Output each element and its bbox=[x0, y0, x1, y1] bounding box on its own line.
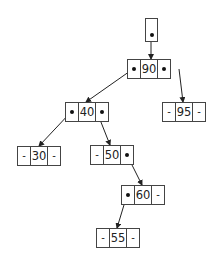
root-pointer-box bbox=[145, 18, 158, 42]
right-null-cell: - bbox=[127, 229, 139, 247]
pointer-dot-icon bbox=[100, 110, 104, 114]
right-pointer-cell bbox=[96, 103, 108, 121]
node-key: 40 bbox=[78, 103, 96, 121]
right-null-cell: - bbox=[152, 186, 164, 204]
pointer-dot-icon bbox=[125, 153, 129, 157]
tree-edges bbox=[0, 0, 218, 261]
tree-node-50: - 50 bbox=[90, 145, 134, 165]
node-key: 60 bbox=[134, 186, 152, 204]
left-pointer-cell bbox=[128, 60, 140, 78]
tree-node-60: 60 - bbox=[121, 185, 165, 205]
left-null-cell: - bbox=[97, 229, 109, 247]
tree-node-30: - 30 - bbox=[17, 146, 61, 166]
tree-node-55: - 55 - bbox=[96, 228, 140, 248]
node-key: 55 bbox=[109, 229, 127, 247]
node-key: 90 bbox=[140, 60, 158, 78]
right-null-cell: - bbox=[48, 147, 60, 165]
left-pointer-cell bbox=[66, 103, 78, 121]
left-pointer-cell bbox=[122, 186, 134, 204]
tree-node-95: - 95 - bbox=[162, 102, 206, 122]
left-null-cell: - bbox=[18, 147, 30, 165]
node-key: 30 bbox=[30, 147, 48, 165]
node-key: 95 bbox=[175, 103, 193, 121]
right-pointer-cell bbox=[121, 146, 133, 164]
node-key: 50 bbox=[103, 146, 121, 164]
pointer-dot-icon bbox=[70, 110, 74, 114]
right-null-cell: - bbox=[193, 103, 205, 121]
pointer-dot-icon bbox=[126, 193, 130, 197]
edge-90-95 bbox=[179, 69, 183, 102]
left-null-cell: - bbox=[163, 103, 175, 121]
tree-node-90: 90 bbox=[127, 59, 171, 79]
pointer-dot-icon bbox=[162, 67, 166, 71]
pointer-dot-icon bbox=[132, 67, 136, 71]
edge-90-40 bbox=[86, 69, 133, 102]
left-null-cell: - bbox=[91, 146, 103, 164]
pointer-dot-icon bbox=[150, 33, 154, 37]
tree-node-40: 40 bbox=[65, 102, 109, 122]
right-pointer-cell bbox=[158, 60, 170, 78]
